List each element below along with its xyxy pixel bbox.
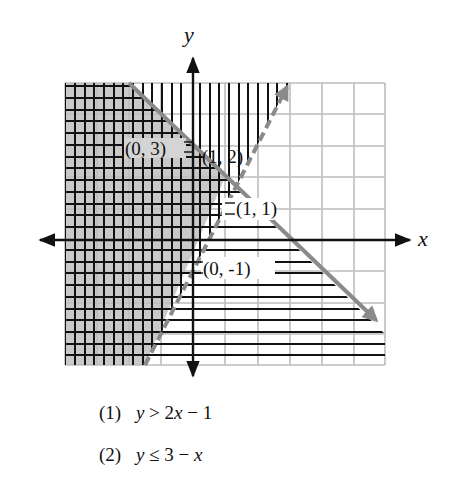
inequality-1-lhs: y	[136, 402, 144, 423]
label-point-1-1: (1, 1)	[236, 198, 277, 220]
inequality-1: (1) y > 2x − 1	[99, 402, 212, 424]
inequality-1-rhs-a: 2	[165, 402, 175, 423]
label-point-0-neg1: (0, -1)	[203, 258, 250, 280]
inequality-2: (2) y ≤ 3 − x	[99, 444, 202, 466]
inequality-2-rhs-a: 3 −	[164, 444, 194, 465]
inequality-1-rhs-var: x	[174, 402, 182, 423]
inequality-1-operator: >	[149, 402, 160, 423]
label-point-0-3: (0, 3)	[125, 138, 166, 160]
inequality-2-number: (2)	[99, 444, 121, 465]
inequality-graph: x y (0, 3) (1, 2) (1, 1) (0, -1)	[0, 0, 451, 488]
y-axis-label: y	[182, 22, 194, 47]
label-point-1-2: (1, 2)	[202, 146, 243, 168]
inequality-1-rhs-b: − 1	[183, 402, 213, 423]
inequality-2-operator: ≤	[149, 444, 159, 465]
x-axis-label: x	[417, 226, 428, 251]
inequality-2-rhs-var: x	[194, 444, 202, 465]
inequality-1-number: (1)	[99, 402, 121, 423]
inequality-2-lhs: y	[136, 444, 144, 465]
